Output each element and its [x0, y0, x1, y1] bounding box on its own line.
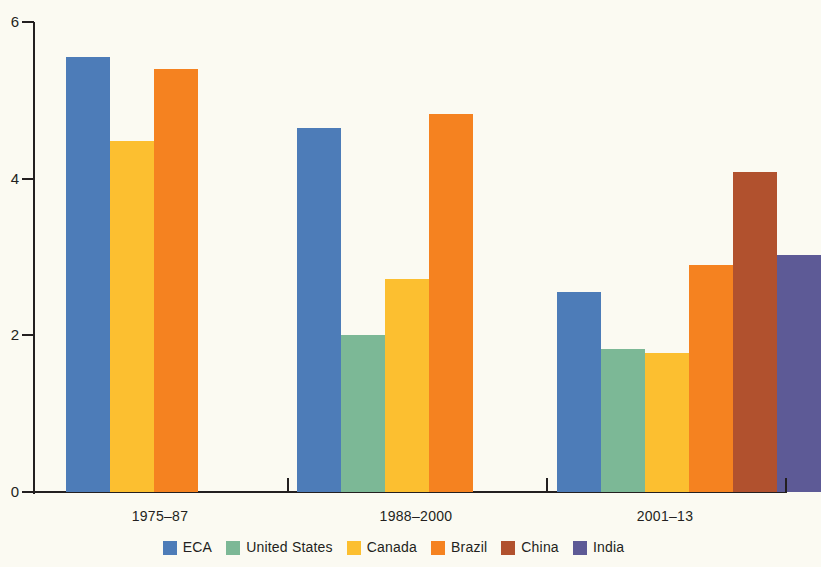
bar	[154, 69, 198, 492]
y-axis-tick-label: 0	[0, 484, 19, 499]
legend-swatch-icon	[347, 541, 361, 555]
legend-swatch-icon	[226, 541, 240, 555]
y-axis-tick-label: 2	[0, 327, 19, 342]
legend-swatch-icon	[573, 541, 587, 555]
legend-label: United States	[246, 540, 333, 555]
y-axis-line	[33, 22, 35, 494]
bar	[557, 292, 601, 492]
x-axis-tick	[785, 478, 787, 493]
legend-label: ECA	[183, 540, 212, 555]
bar	[385, 279, 429, 492]
chart-legend: ECAUnited StatesCanadaBrazilChinaIndia	[0, 540, 787, 555]
bar	[689, 265, 733, 492]
bar	[429, 114, 473, 492]
bar	[297, 128, 341, 492]
legend-label: Brazil	[451, 540, 487, 555]
x-axis-tick	[33, 478, 35, 493]
y-axis-tick-label: 4	[0, 171, 19, 186]
legend-label: Canada	[367, 540, 417, 555]
y-axis-tick-label: 6	[0, 14, 19, 29]
legend-item: Canada	[347, 540, 417, 555]
legend-swatch-icon	[431, 541, 445, 555]
legend-item: China	[501, 540, 559, 555]
bar	[341, 335, 385, 492]
bar	[645, 353, 689, 492]
x-axis-tick	[546, 478, 548, 493]
legend-swatch-icon	[163, 541, 177, 555]
legend-item: Brazil	[431, 540, 487, 555]
bar	[777, 255, 821, 492]
x-axis-tick	[287, 478, 289, 493]
x-axis-group-label: 2001–13	[595, 508, 735, 524]
x-axis-group-label: 1975–87	[90, 508, 230, 524]
legend-swatch-icon	[501, 541, 515, 555]
legend-label: China	[521, 540, 559, 555]
legend-item: United States	[226, 540, 333, 555]
x-axis-group-label: 1988–2000	[346, 508, 486, 524]
bar	[733, 172, 777, 492]
legend-item: ECA	[163, 540, 212, 555]
bar	[601, 349, 645, 492]
bar	[110, 141, 154, 492]
legend-item: India	[573, 540, 624, 555]
bar	[66, 57, 110, 492]
legend-label: India	[593, 540, 624, 555]
